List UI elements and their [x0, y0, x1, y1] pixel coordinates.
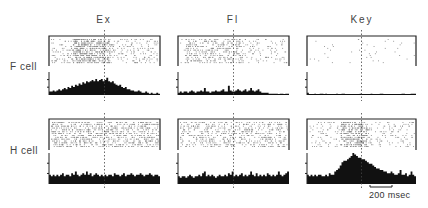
panel-f-cell-key [305, 30, 416, 101]
panel-f-cell-ex [47, 30, 160, 101]
panel-f-cell-fl [176, 30, 289, 101]
panel-h-cell-ex [47, 113, 160, 190]
scale-bar [370, 185, 392, 187]
panel-h-cell-key [305, 113, 416, 190]
plots-canvas [0, 0, 428, 208]
scale-bar-label: 200 msec [369, 190, 410, 200]
panel-h-cell-fl [176, 113, 289, 190]
figure: Ex Fl Key F cell H cell 200 msec [0, 0, 428, 208]
